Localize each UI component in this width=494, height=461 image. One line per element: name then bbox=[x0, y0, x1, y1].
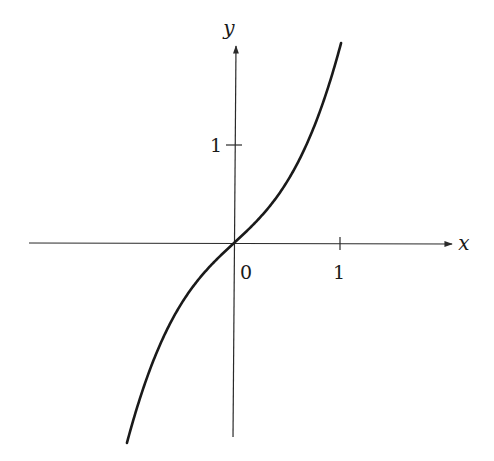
x-tick-label-1: 1 bbox=[333, 261, 345, 283]
function-graph: y x 0 1 1 bbox=[0, 0, 494, 461]
y-tick-label-1: 1 bbox=[210, 134, 222, 156]
origin-label: 0 bbox=[240, 261, 252, 283]
y-axis-label: y bbox=[222, 16, 235, 40]
x-axis bbox=[29, 243, 452, 244]
x-axis-label: x bbox=[458, 231, 469, 255]
